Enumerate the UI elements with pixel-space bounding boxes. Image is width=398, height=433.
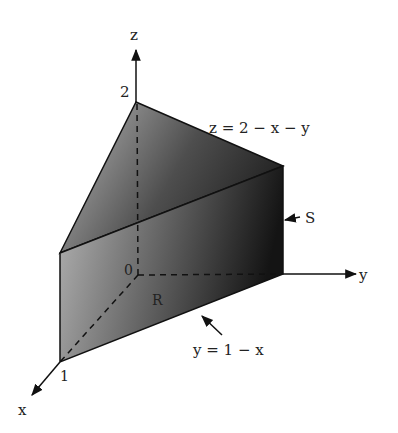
x-axis bbox=[32, 362, 60, 395]
region-label: R bbox=[152, 292, 163, 308]
origin-label: 0 bbox=[124, 262, 133, 278]
z-axis-label: z bbox=[130, 26, 138, 44]
solid-region-diagram: z y x 2 0 1 z = 2 − x − y S R y = 1 − x bbox=[0, 0, 398, 433]
curve-pointer-arrow bbox=[202, 316, 222, 335]
x-axis-label: x bbox=[18, 401, 27, 419]
surface-equation-label: z = 2 − x − y bbox=[209, 119, 310, 137]
boundary-equation-label: y = 1 − x bbox=[192, 341, 264, 359]
solid-label: S bbox=[305, 209, 315, 227]
z-tick-label: 2 bbox=[120, 83, 130, 101]
y-axis-label: y bbox=[358, 266, 368, 284]
s-pointer-arrow bbox=[285, 217, 300, 220]
x-tick-label: 1 bbox=[60, 368, 69, 384]
